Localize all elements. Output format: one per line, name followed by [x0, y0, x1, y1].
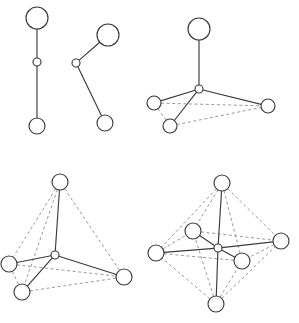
- four-coordinate-trigonal-pyramidal-ligand-front-node[interactable]: [163, 119, 177, 133]
- solid-bond-metal-center-to-ligand-equatorial-front: [222, 250, 235, 257]
- bent-two-coordinate[interactable]: [72, 24, 119, 131]
- linear-two-coordinate-ligand-bottom-node[interactable]: [29, 118, 45, 134]
- four-coordinate-trigonal-pyramidal-solid-bonds: [161, 40, 262, 120]
- four-coordinate-trigonal-pyramidal-ligand-apex-node[interactable]: [188, 18, 210, 40]
- bent-two-coordinate-metal-center-node[interactable]: [72, 59, 80, 67]
- dashed-bond-ligand-left-to-ligand-front: [12, 271, 18, 284]
- dashed-bond-ligand-left-to-ligand-right: [161, 103, 261, 106]
- solid-bond-metal-center-to-ligand-left: [17, 256, 51, 263]
- bent-two-coordinate-ligand-upper-right-node[interactable]: [97, 24, 119, 46]
- dashed-bond-ligand-front-to-ligand-right: [177, 107, 261, 124]
- figure-canvas: [0, 0, 299, 323]
- six-coordinate-octahedral-ligand-equatorial-back-node[interactable]: [185, 223, 201, 239]
- four-coordinate-trigonal-pyramidal-atoms: [147, 18, 275, 133]
- four-coordinate-tetrahedral-ligand-front-node[interactable]: [14, 284, 30, 300]
- bent-two-coordinate-solid-bonds: [78, 42, 102, 116]
- six-coordinate-octahedral-ligand-axial-top-node[interactable]: [214, 175, 230, 191]
- linear-two-coordinate-ligand-top-node[interactable]: [26, 7, 48, 29]
- dashed-bond-ligand-apex-to-ligand-right: [64, 189, 119, 271]
- four-coordinate-tetrahedral-ligand-right-node[interactable]: [116, 269, 132, 285]
- solid-bond-ligand-upper-right-to-metal-center: [79, 42, 100, 60]
- four-coordinate-trigonal-pyramidal-ligand-left-node[interactable]: [147, 96, 161, 110]
- dashed-bond-ligand-equatorial-back-to-ligand-equatorial-right: [201, 232, 273, 240]
- solid-bond-metal-center-to-ligand-front: [27, 258, 52, 286]
- solid-bond-metal-center-to-ligand-equatorial-left: [164, 248, 214, 252]
- linear-two-coordinate-metal-center-node[interactable]: [33, 58, 41, 66]
- dashed-bond-ligand-left-to-ligand-right: [17, 265, 116, 276]
- dashed-bond-ligand-equatorial-front-to-ligand-equatorial-left: [164, 254, 234, 261]
- solid-bond-metal-center-to-ligand-front: [174, 92, 196, 120]
- linear-two-coordinate[interactable]: [26, 7, 48, 134]
- six-coordinate-octahedral[interactable]: [148, 175, 289, 312]
- four-coordinate-tetrahedral[interactable]: [1, 174, 132, 300]
- four-coordinate-tetrahedral-dashed-bonds: [12, 189, 119, 291]
- dashed-bond-ligand-front-to-ligand-right: [30, 278, 116, 291]
- six-coordinate-octahedral-ligand-equatorial-left-node[interactable]: [148, 245, 164, 261]
- six-coordinate-octahedral-metal-center-node[interactable]: [214, 244, 222, 252]
- solid-bond-metal-center-to-ligand-lower-right: [78, 67, 102, 116]
- dashed-bond-ligand-axial-bottom-to-ligand-equatorial-front: [220, 268, 238, 297]
- four-coordinate-tetrahedral-solid-bonds: [17, 190, 117, 286]
- four-coordinate-trigonal-pyramidal-ligand-right-node[interactable]: [261, 99, 275, 113]
- solid-bond-metal-center-to-ligand-equatorial-right: [222, 242, 273, 248]
- dashed-bond-ligand-axial-top-to-ligand-equatorial-front: [224, 191, 240, 254]
- solid-bond-ligand-apex-to-metal-center: [55, 190, 59, 251]
- coordination-geometry-figure: [0, 0, 299, 323]
- solid-bond-metal-center-to-ligand-right: [203, 90, 261, 104]
- six-coordinate-octahedral-ligand-equatorial-right-node[interactable]: [273, 233, 289, 249]
- four-coordinate-tetrahedral-ligand-apex-node[interactable]: [52, 174, 68, 190]
- dashed-bond-ligand-axial-bottom-to-ligand-equatorial-left: [162, 258, 210, 299]
- dashed-bond-ligand-axial-bottom-to-ligand-equatorial-back: [195, 239, 213, 297]
- solid-bond-ligand-axial-top-to-metal-center: [218, 191, 221, 244]
- dashed-bond-ligand-axial-top-to-ligand-equatorial-back: [197, 190, 218, 224]
- dashed-bond-ligand-apex-to-ligand-left: [13, 189, 56, 257]
- four-coordinate-tetrahedral-metal-center-node[interactable]: [51, 251, 59, 259]
- six-coordinate-octahedral-atoms: [148, 175, 289, 312]
- four-coordinate-trigonal-pyramidal[interactable]: [147, 18, 275, 133]
- dashed-bond-ligand-axial-top-to-ligand-equatorial-right: [228, 189, 276, 236]
- dashed-bond-ligand-left-to-ligand-front: [158, 109, 166, 121]
- bent-two-coordinate-ligand-lower-right-node[interactable]: [97, 115, 113, 131]
- four-coordinate-trigonal-pyramidal-metal-center-node[interactable]: [195, 85, 203, 93]
- solid-bond-metal-center-to-ligand-right: [59, 256, 117, 274]
- six-coordinate-octahedral-ligand-axial-bottom-node[interactable]: [208, 296, 224, 312]
- four-coordinate-tetrahedral-ligand-left-node[interactable]: [1, 256, 17, 272]
- solid-bond-metal-center-to-ligand-equatorial-back: [200, 235, 215, 245]
- six-coordinate-octahedral-ligand-equatorial-front-node[interactable]: [234, 253, 250, 269]
- solid-bond-metal-center-to-ligand-left: [161, 90, 195, 101]
- bent-two-coordinate-atoms: [72, 24, 119, 131]
- four-coordinate-tetrahedral-atoms: [1, 174, 132, 300]
